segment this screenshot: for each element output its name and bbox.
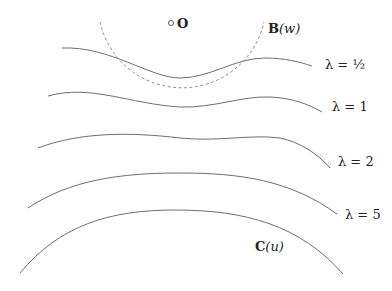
label-lambda-1: λ = 1 [332,100,368,113]
diagram-canvas: O B(w) λ = ½ λ = 1 λ = 2 λ = 5 C(u) [0,0,392,291]
label-lambda-half: λ = ½ [325,58,365,71]
label-c-of-u: C(u) [255,240,284,253]
ball-label-arg: (w) [279,21,300,36]
ball-label-letter: B [268,21,279,36]
c-label-arg: (u) [265,239,284,254]
ball-label: B(w) [268,22,300,35]
curve-lambda-5 [28,173,337,214]
curve-lambda-half [62,48,312,78]
label-lambda-2: λ = 2 [338,155,374,168]
curve-lambda-2 [38,134,330,168]
c-label-letter: C [255,239,265,254]
label-lambda-5: λ = 5 [345,208,381,221]
diagram-svg [0,0,392,291]
curve-c-of-u [20,210,343,274]
curve-lambda-1 [48,92,322,112]
origin-point-icon [168,20,174,26]
origin-label: O [177,17,188,30]
